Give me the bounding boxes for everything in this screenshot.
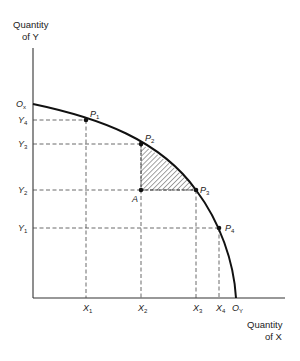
label-y3: Y3 [18, 139, 28, 150]
label-oy: OY [232, 303, 243, 314]
label-y4: Y4 [18, 115, 28, 126]
label-y2: Y2 [18, 185, 28, 196]
point-p4 [217, 226, 222, 231]
y-axis-title-line2: of Y [22, 31, 39, 42]
label-y1: Y1 [18, 223, 28, 234]
label-p2: P2 [145, 133, 155, 144]
label-a: A [131, 194, 138, 204]
point-p3 [194, 188, 199, 193]
point-a [139, 188, 144, 193]
y-axis-title-line1: Quantity [13, 19, 49, 30]
label-p4: P4 [225, 223, 235, 234]
label-x3: X3 [192, 303, 203, 314]
x-axis-title-line2: of X [265, 331, 283, 342]
label-p1: P1 [90, 109, 100, 120]
label-x2: X2 [137, 303, 148, 314]
dashed-guides [33, 120, 219, 298]
x-axis-title-line1: Quantity [247, 319, 283, 330]
label-p3: P3 [200, 185, 210, 196]
point-p2 [139, 142, 144, 147]
label-x1: X1 [82, 303, 93, 314]
label-x4: X4 [215, 303, 226, 314]
ppf-diagram: Quantity of Y Quantity of X P1 P2 P3 P4 … [0, 0, 300, 361]
label-ox: Ox [16, 99, 26, 110]
hatched-region [141, 144, 196, 190]
point-p1 [84, 118, 89, 123]
